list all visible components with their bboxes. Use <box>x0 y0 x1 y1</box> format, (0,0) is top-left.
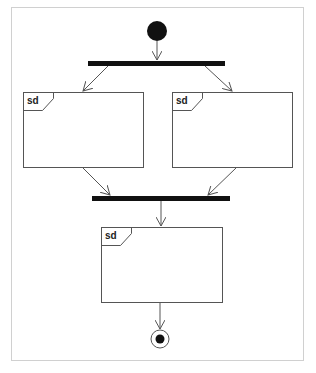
initial-node[interactable] <box>147 21 167 41</box>
sd-frame-right[interactable]: sd <box>173 93 293 168</box>
diagram-canvas: sd sd sd <box>0 0 316 373</box>
sd-tag-label-bottom: sd <box>105 230 117 241</box>
sd-frame-bottom[interactable]: sd <box>102 228 223 303</box>
sd-frame-left[interactable]: sd <box>24 93 144 168</box>
final-node[interactable] <box>151 330 169 348</box>
edge-fork-to-right-frame <box>205 66 232 91</box>
sd-tag-label-right: sd <box>176 95 188 106</box>
edge-right-frame-to-join <box>208 168 236 195</box>
edge-fork-to-left-frame <box>83 66 108 91</box>
sd-tag-label-left: sd <box>27 95 39 106</box>
join-bar[interactable] <box>92 196 230 201</box>
activity-diagram: sd sd sd <box>0 0 316 373</box>
edge-left-frame-to-join <box>83 168 110 195</box>
fork-bar[interactable] <box>88 61 225 66</box>
